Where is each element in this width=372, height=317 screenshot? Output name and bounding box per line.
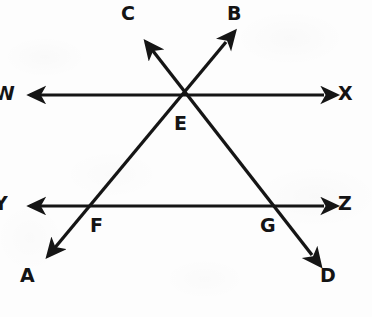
label-point-c: C (121, 4, 135, 23)
label-point-d: D (320, 266, 336, 285)
line-cd (146, 42, 312, 255)
geometry-diagram: W X Y Z A B C D E F G (0, 0, 372, 317)
label-point-f: F (90, 216, 103, 235)
label-point-x: X (338, 84, 353, 103)
label-point-g: G (260, 216, 276, 235)
label-point-b: B (227, 4, 241, 23)
label-point-w: W (0, 84, 15, 103)
label-point-a: A (20, 266, 35, 285)
line-ab (48, 42, 226, 256)
label-point-e: E (174, 114, 187, 133)
figure-svg (0, 0, 372, 317)
label-point-y: Y (0, 194, 8, 213)
label-point-z: Z (338, 194, 352, 213)
